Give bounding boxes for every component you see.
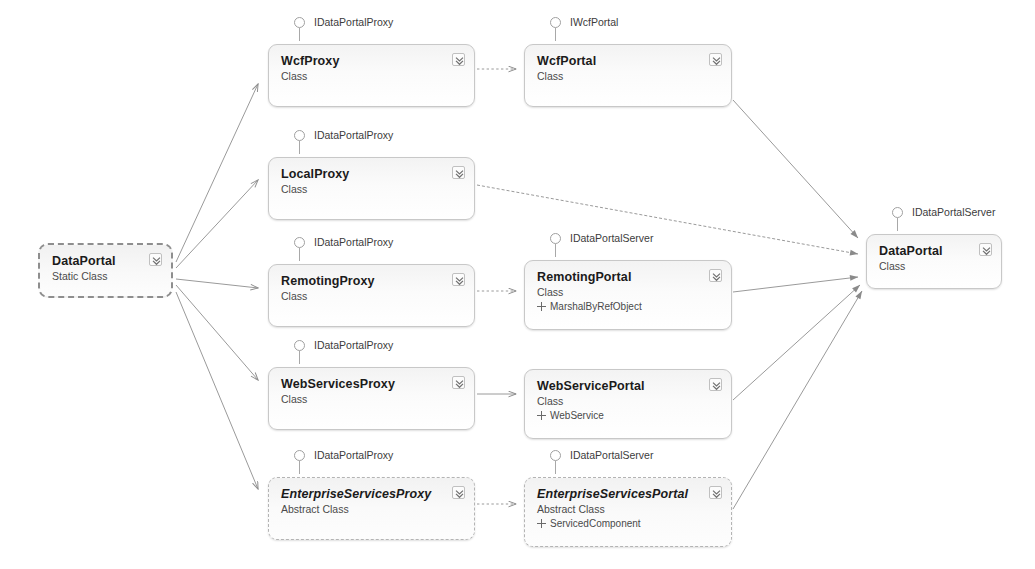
chevron-double-down-icon[interactable]	[452, 376, 465, 389]
class-name: LocalProxy	[281, 167, 462, 181]
chevron-double-down-icon[interactable]	[452, 273, 465, 286]
class-name: DataPortal	[52, 254, 159, 268]
class-kind: Class	[281, 393, 462, 406]
connector-dataportal-to-localproxy	[176, 180, 258, 268]
interface-label: IDataPortalProxy	[314, 17, 393, 28]
lollipop-interface-dataportal-server[interactable]: IDataPortalServer	[892, 207, 995, 218]
lollipop-interface-remoting-portal[interactable]: IDataPortalServer	[550, 233, 653, 244]
lollipop-interface-icon	[294, 340, 305, 351]
class-name: EnterpriseServicesProxy	[281, 487, 462, 501]
class-name: WebServicesProxy	[281, 377, 462, 391]
base-class-name: MarshalByRefObject	[550, 300, 642, 313]
lollipop-stem	[299, 248, 300, 261]
connector-dataportal-to-enterpriseservicesproxy	[176, 292, 258, 489]
class-kind: Static Class	[52, 270, 159, 283]
class-node-local-proxy[interactable]: LocalProxyClass	[268, 157, 475, 220]
class-name: RemotingProxy	[281, 274, 462, 288]
base-class-icon	[537, 411, 546, 420]
lollipop-interface-icon	[294, 450, 305, 461]
base-class-name: WebService	[550, 409, 604, 422]
connector-dataportal-to-remotingproxy	[176, 279, 258, 288]
class-node-webservice-portal[interactable]: WebServicePortalClassWebService	[524, 369, 732, 439]
class-kind: Class	[281, 290, 462, 303]
class-diagram-canvas: DataPortalStatic ClassIDataPortalProxyWc…	[0, 0, 1035, 569]
class-kind: Abstract Class	[281, 503, 462, 516]
class-name: EnterpriseServicesPortal	[537, 487, 719, 501]
chevron-double-down-icon[interactable]	[709, 486, 722, 499]
base-class-name: ServicedComponent	[550, 517, 641, 530]
connector-dataportal-to-webservicesproxy	[176, 285, 258, 380]
lollipop-interface-icon	[892, 207, 903, 218]
class-kind: Class	[537, 70, 719, 83]
chevron-double-down-icon[interactable]	[709, 53, 722, 66]
base-class-icon	[537, 519, 546, 528]
lollipop-interface-icon	[550, 17, 561, 28]
interface-label: IDataPortalProxy	[314, 340, 393, 351]
interface-label: IDataPortalServer	[912, 207, 995, 218]
connector-remotingportal-to-dataportal	[733, 277, 858, 292]
class-kind: Class	[537, 286, 719, 299]
connector-localproxy-to-dataportal	[477, 185, 858, 254]
lollipop-stem	[299, 351, 300, 364]
lollipop-interface-icon	[294, 17, 305, 28]
class-node-remoting-proxy[interactable]: RemotingProxyClass	[268, 264, 475, 327]
class-node-enterpriseservices-portal[interactable]: EnterpriseServicesPortalAbstract ClassSe…	[524, 477, 732, 547]
lollipop-stem	[299, 141, 300, 154]
class-name: DataPortal	[879, 244, 989, 258]
base-class-row: WebService	[537, 409, 719, 422]
interface-label: IDataPortalProxy	[314, 450, 393, 461]
lollipop-interface-local-proxy[interactable]: IDataPortalProxy	[294, 130, 393, 141]
class-name: WcfPortal	[537, 54, 719, 68]
lollipop-stem	[555, 461, 556, 474]
connector-wcfportal-to-dataportal	[733, 100, 858, 238]
class-kind: Abstract Class	[537, 503, 719, 516]
interface-label: IDataPortalProxy	[314, 237, 393, 248]
chevron-double-down-icon[interactable]	[452, 53, 465, 66]
interface-label: IDataPortalProxy	[314, 130, 393, 141]
chevron-double-down-icon[interactable]	[452, 166, 465, 179]
chevron-double-down-icon[interactable]	[709, 269, 722, 282]
lollipop-interface-wcf-proxy[interactable]: IDataPortalProxy	[294, 17, 393, 28]
chevron-double-down-icon[interactable]	[149, 253, 162, 266]
lollipop-interface-icon	[294, 237, 305, 248]
class-kind: Class	[281, 70, 462, 83]
base-class-row: ServicedComponent	[537, 517, 719, 530]
class-node-webservices-proxy[interactable]: WebServicesProxyClass	[268, 367, 475, 430]
lollipop-stem	[555, 244, 556, 257]
interface-label: IDataPortalServer	[570, 450, 653, 461]
class-node-wcf-portal[interactable]: WcfPortalClass	[524, 44, 732, 107]
lollipop-interface-enterpriseservices-proxy[interactable]: IDataPortalProxy	[294, 450, 393, 461]
interface-label: IWcfPortal	[570, 17, 618, 28]
class-name: RemotingPortal	[537, 270, 719, 284]
lollipop-stem	[299, 461, 300, 474]
class-name: WcfProxy	[281, 54, 462, 68]
class-node-wcf-proxy[interactable]: WcfProxyClass	[268, 44, 475, 107]
chevron-double-down-icon[interactable]	[979, 243, 992, 256]
lollipop-interface-icon	[550, 450, 561, 461]
interface-label: IDataPortalServer	[570, 233, 653, 244]
chevron-double-down-icon[interactable]	[709, 378, 722, 391]
class-node-dataportal-server[interactable]: DataPortalClass	[866, 234, 1002, 289]
class-kind: Class	[281, 183, 462, 196]
base-class-row: MarshalByRefObject	[537, 300, 719, 313]
base-class-icon	[537, 302, 546, 311]
class-name: WebServicePortal	[537, 379, 719, 393]
lollipop-stem	[897, 218, 898, 231]
connector-enterpriseservicesportal-to-dataportal	[733, 291, 862, 509]
connector-webserviceportal-to-dataportal	[733, 285, 860, 400]
class-kind: Class	[879, 260, 989, 273]
lollipop-interface-wcf-portal[interactable]: IWcfPortal	[550, 17, 618, 28]
lollipop-interface-webservices-proxy[interactable]: IDataPortalProxy	[294, 340, 393, 351]
class-node-remoting-portal[interactable]: RemotingPortalClassMarshalByRefObject	[524, 260, 732, 330]
lollipop-interface-remoting-proxy[interactable]: IDataPortalProxy	[294, 237, 393, 248]
class-node-enterpriseservices-proxy[interactable]: EnterpriseServicesProxyAbstract Class	[268, 477, 475, 540]
class-kind: Class	[537, 395, 719, 408]
connector-dataportal-to-wcfproxy	[176, 84, 258, 262]
chevron-double-down-icon[interactable]	[452, 486, 465, 499]
lollipop-interface-icon	[550, 233, 561, 244]
lollipop-interface-enterpriseservices-portal[interactable]: IDataPortalServer	[550, 450, 653, 461]
class-node-dataportal-client[interactable]: DataPortalStatic Class	[38, 243, 173, 298]
lollipop-stem	[299, 28, 300, 41]
lollipop-interface-icon	[294, 130, 305, 141]
lollipop-stem	[555, 28, 556, 41]
